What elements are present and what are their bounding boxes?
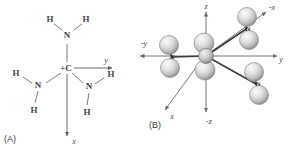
hydrogen-label-left-a: H [12,68,19,78]
nitrogen-label-3d-upper-right: N [245,25,250,33]
nitrogen-label-right: N [86,81,93,91]
axis-label-neg-z-b: -z [206,117,213,126]
panel-a-group: N H H N H H N H H +C y x (A) [4,14,115,146]
carbon-label-center: +C [60,63,72,73]
axis-label-y-a: y [103,56,108,65]
axis-label-z-b: z [203,2,208,11]
bond-n-h-right-b [87,93,89,105]
hydrogen-label-left-b: H [30,105,37,115]
axis-label-neg-y-b: -y [141,39,148,48]
nh2-group-upper-right: N [238,8,259,50]
axis-label-x-b: x [169,112,174,121]
hydrogen-sphere-left-b [161,59,180,78]
hydrogen-sphere-lr-a [245,63,264,82]
figure-svg: N H H N H H N H H +C y x (A) [0,0,295,148]
nitrogen-label-top: N [64,30,71,40]
nitrogen-label-3d-lower-right: N [255,80,260,88]
nitrogen-label-left: N [35,80,42,90]
bond-c-n-left [46,73,61,83]
hydrogen-label-right-a: H [107,69,114,79]
panel-b-group: N N N z -z y -y [140,2,283,130]
bond-n-h-top-right [74,24,82,30]
panel-a-axes [67,68,112,136]
figure-canvas: N H H N H H N H H +C y x (A) [0,0,295,148]
bond-c-n-right [72,73,83,83]
nh2-group-lower-right: N [245,63,269,105]
hydrogen-label-right-b: H [83,107,90,117]
hydrogen-label-top-right: H [82,14,89,24]
bond-n-h-left-a [23,77,32,83]
axis-label-x-a: x [71,137,76,146]
axis-label-neg-x-b: -x [269,3,276,12]
bond-n-h-left-b [35,91,38,103]
nitrogen-label-3d-left: N [169,53,174,61]
hydrogen-sphere-ur-b [240,31,259,50]
panel-label-a: (A) [4,134,16,144]
bond-n-h-top-left [54,24,62,30]
carbon-sphere-center [199,49,214,64]
hydrogen-label-top-left: H [46,14,53,24]
hydrogen-sphere-lr-b [250,86,269,105]
bond-n-h-right-a [95,78,104,84]
hydrogen-sphere-left-a [160,36,179,55]
hydrogen-sphere-ur-a [238,8,257,27]
axis-label-y-b: y [278,55,283,64]
panel-label-b: (B) [149,120,161,130]
